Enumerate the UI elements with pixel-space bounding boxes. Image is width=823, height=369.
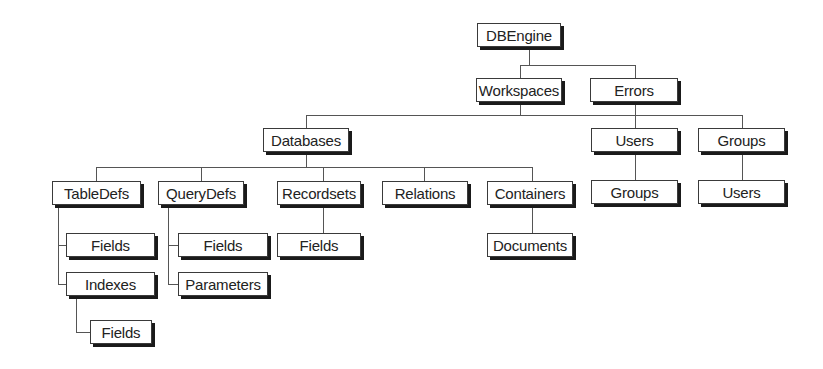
node-dbengine: DBEngine (477, 23, 561, 47)
connector (635, 101, 636, 128)
node-recordsets: Recordsets (277, 181, 361, 205)
node-databases: Databases (263, 128, 349, 152)
connector (323, 167, 324, 181)
node-recordsets-fields: Fields (277, 233, 361, 257)
connector (742, 152, 743, 180)
dao-hierarchy-diagram: DBEngine Workspaces Errors Databases Use… (0, 0, 823, 369)
node-relations: Relations (382, 181, 468, 205)
connector (532, 167, 533, 181)
node-containers: Containers (487, 181, 573, 205)
node-errors: Errors (590, 78, 678, 102)
node-users: Users (591, 128, 678, 152)
node-tabledefs-fields: Fields (66, 233, 155, 257)
connector (323, 204, 324, 233)
connector (306, 115, 743, 116)
connector (529, 47, 530, 65)
connector (306, 115, 307, 128)
connector (520, 65, 521, 78)
node-tabledefs: TableDefs (52, 181, 141, 205)
connector (201, 167, 202, 181)
node-tabledefs-indexes: Indexes (66, 272, 155, 296)
node-workspaces: Workspaces (476, 78, 562, 102)
connector (168, 245, 178, 246)
connector (742, 115, 743, 128)
connector (96, 167, 97, 181)
connector (96, 167, 533, 168)
connector (424, 167, 425, 181)
connector (635, 65, 636, 78)
connector (58, 284, 66, 285)
node-querydefs-fields: Fields (178, 233, 268, 257)
node-groups-users: Users (698, 180, 785, 204)
connector (58, 245, 66, 246)
node-querydefs-parameters: Parameters (178, 272, 268, 296)
node-users-groups: Groups (591, 180, 678, 204)
connector (306, 152, 307, 167)
node-groups: Groups (698, 128, 785, 152)
connector (76, 332, 90, 333)
connector (532, 204, 533, 233)
connector (520, 65, 636, 66)
node-indexes-fields: Fields (90, 320, 152, 344)
node-containers-documents: Documents (487, 233, 573, 257)
connector (635, 152, 636, 180)
connector (520, 101, 521, 115)
connector (76, 296, 77, 332)
connector (168, 284, 178, 285)
node-querydefs: QueryDefs (158, 181, 244, 205)
